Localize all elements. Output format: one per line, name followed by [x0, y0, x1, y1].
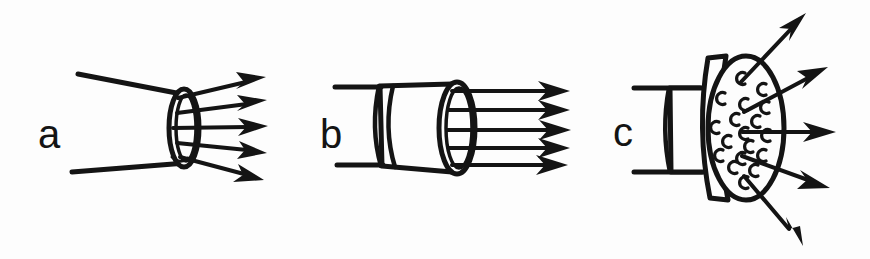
nozzle-flow-diagram: a: [0, 0, 870, 259]
figure-root: a: [0, 0, 870, 259]
panel-a-label: a: [38, 112, 61, 156]
panel-c-label: c: [613, 110, 633, 154]
panel-b-label: b: [320, 112, 342, 156]
